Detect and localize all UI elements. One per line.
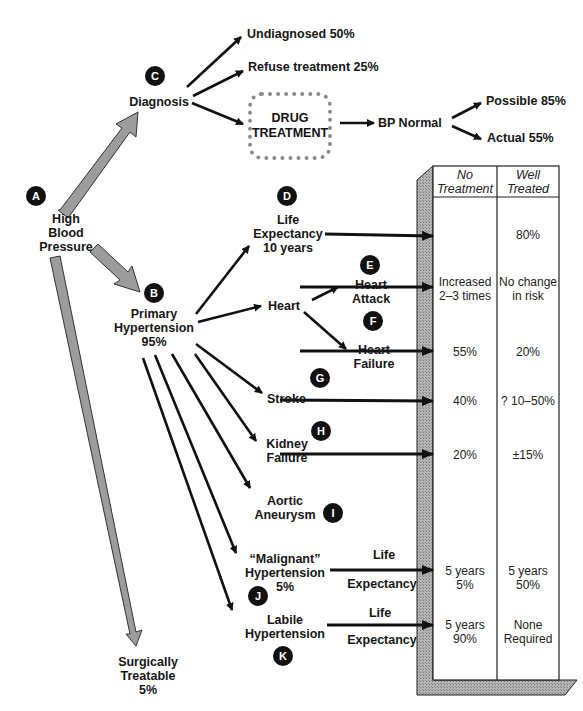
- cell-life-well-treated: 80%: [497, 228, 559, 242]
- node-heart-failure: Heart Failure: [350, 343, 398, 371]
- node-actual: Actual 55%: [487, 131, 554, 145]
- node-surgically-treatable: Surgically Treatable 5%: [113, 655, 183, 697]
- node-labile-hypertension: Labile Hypertension: [244, 613, 326, 641]
- malignant-arrow-bottom: Expectancy: [342, 577, 422, 591]
- node-heart: Heart: [268, 299, 300, 313]
- node-life-expectancy: Life Expectancy 10 years: [252, 213, 324, 255]
- node-possible: Possible 85%: [486, 94, 566, 108]
- cell-malignant-no-treatment: 5 years 5%: [433, 564, 497, 592]
- node-diagnosis: Diagnosis: [127, 95, 191, 109]
- badge-k: K: [273, 646, 293, 666]
- cell-heart-failure-well-treated: 20%: [497, 345, 559, 359]
- cell-stroke-well-treated: ? 10–50%: [497, 394, 559, 408]
- cell-stroke-no-treatment: 40%: [433, 394, 497, 408]
- badge-a: A: [26, 186, 46, 206]
- node-heart-attack: Heart Attack: [348, 278, 394, 306]
- cell-malignant-well-treated: 5 years 50%: [497, 564, 559, 592]
- badge-f: F: [363, 311, 383, 331]
- node-bp-normal: BP Normal: [378, 116, 442, 130]
- badge-j: J: [248, 586, 268, 606]
- badge-b: B: [144, 283, 164, 303]
- badge-c: C: [145, 66, 165, 86]
- node-primary-hypertension: Primary Hypertension 95%: [113, 307, 195, 349]
- table-header-no-treatment: No Treatment: [433, 168, 497, 196]
- node-kidney-failure: Kidney Failure: [263, 437, 311, 465]
- cell-heart-attack-no-treatment: Increased 2–3 times: [433, 275, 497, 303]
- node-refuse-treatment: Refuse treatment 25%: [248, 60, 379, 74]
- badge-e: E: [360, 255, 380, 275]
- badge-h: H: [311, 421, 331, 441]
- badge-d: D: [277, 186, 297, 206]
- grey-arrows: [50, 112, 142, 646]
- cell-kidney-well-treated: ±15%: [497, 448, 559, 462]
- node-stroke: Stroke: [267, 392, 306, 406]
- node-undiagnosed: Undiagnosed 50%: [247, 27, 355, 41]
- node-drug-treatment: DRUGTREATMENT: [248, 92, 332, 160]
- badge-g: G: [310, 368, 330, 388]
- labile-arrow-bottom: Expectancy: [342, 633, 422, 647]
- malignant-arrow-top: Life: [354, 548, 414, 562]
- table-header-well-treated: Well Treated: [497, 168, 559, 196]
- cell-heart-failure-no-treatment: 55%: [433, 345, 497, 359]
- badge-i: I: [323, 503, 343, 523]
- cell-labile-well-treated: None Required: [497, 618, 559, 646]
- results-table-frame: [417, 166, 577, 695]
- cell-labile-no-treatment: 5 years 90%: [433, 618, 497, 646]
- node-aortic-aneurysm: Aortic Aneurysm: [254, 494, 316, 522]
- labile-arrow-top: Life: [350, 606, 410, 620]
- cell-kidney-no-treatment: 20%: [433, 448, 497, 462]
- cell-heart-attack-well-treated: No change in risk: [497, 275, 559, 303]
- node-high-blood-pressure: High Blood Pressure: [36, 212, 96, 254]
